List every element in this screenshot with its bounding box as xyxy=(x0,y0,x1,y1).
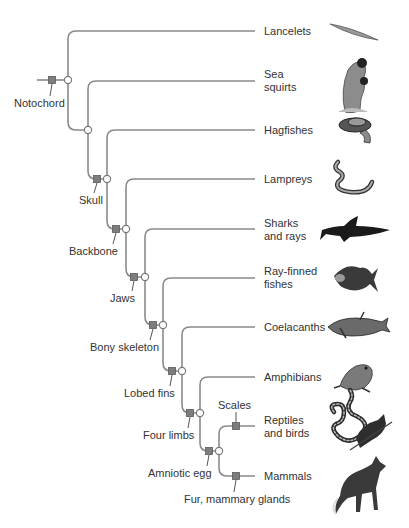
marker-fur xyxy=(233,473,240,480)
node-1 xyxy=(84,126,91,133)
branch-n1-n2 xyxy=(88,130,107,179)
character-label-fur-mammary-glands: Fur, mammary glands xyxy=(184,493,290,506)
leader-amniotic-egg xyxy=(207,455,209,466)
character-label-bony-skeleton: Bony skeleton xyxy=(90,341,159,354)
taxon-label-ray-finned-fishes: Ray-finnedfishes xyxy=(264,265,317,291)
node-0 xyxy=(64,76,71,83)
node-4 xyxy=(141,273,148,280)
leader-jaws xyxy=(132,281,134,291)
branch-n3-n4 xyxy=(126,229,145,277)
node-8 xyxy=(215,447,222,454)
shark-icon xyxy=(320,216,390,242)
lancelet-icon xyxy=(330,24,378,40)
character-label-amniotic-egg: Amniotic egg xyxy=(148,467,212,480)
leader-lobed-fins xyxy=(170,375,172,386)
taxon-label-coelacanths: Coelacanths xyxy=(264,321,325,334)
branch-lampreys xyxy=(126,179,255,229)
taxon-label-sea-squirts: Seasquirts xyxy=(264,68,296,94)
hagfish-icon xyxy=(339,118,371,143)
branch-n4-n5 xyxy=(145,277,163,325)
node-3 xyxy=(122,225,129,232)
branch-coelacanths xyxy=(182,327,255,371)
marker-skull xyxy=(94,176,101,183)
character-label-backbone: Backbone xyxy=(69,245,118,258)
taxon-label-mammals: Mammals xyxy=(264,470,312,483)
branch-hagfishes xyxy=(107,130,255,179)
node-6 xyxy=(178,367,185,374)
branch-n7-n8 xyxy=(200,413,219,451)
leader-skull xyxy=(94,183,97,193)
character-label-skull: Skull xyxy=(79,194,103,207)
node-7 xyxy=(196,409,203,416)
frog-icon xyxy=(334,365,372,392)
bird-icon xyxy=(350,414,392,450)
taxon-label-sharks-and-rays: Sharksand rays xyxy=(264,217,306,243)
leader-fur xyxy=(234,480,236,492)
coelacanth-icon xyxy=(328,312,390,338)
marker-four-limbs xyxy=(187,410,194,417)
character-label-four-limbs: Four limbs xyxy=(143,429,194,442)
lamprey-icon xyxy=(335,162,372,192)
ray-finned-fish-icon xyxy=(334,266,378,292)
marker-bony-skeleton xyxy=(150,322,157,329)
branch-n2-n3 xyxy=(107,179,126,229)
leader-backbone xyxy=(113,233,116,244)
branch-sea-squirts xyxy=(88,81,255,130)
marker-amniotic-egg xyxy=(206,448,213,455)
marker-backbone xyxy=(113,226,120,233)
leader-bony-skeleton xyxy=(150,329,153,340)
branch-n0-n1 xyxy=(68,80,88,130)
character-label-jaws: Jaws xyxy=(110,292,135,305)
marker-scales xyxy=(233,423,240,430)
character-label-scales: Scales xyxy=(218,399,251,412)
taxon-label-reptiles-and-birds: Reptilesand birds xyxy=(264,414,309,440)
branch-ray-finned xyxy=(163,278,255,325)
phylogenetic-tree xyxy=(0,0,409,528)
taxon-label-amphibians: Amphibians xyxy=(264,371,321,384)
marker-notochord xyxy=(49,77,56,84)
node-2 xyxy=(103,175,110,182)
node-5 xyxy=(159,321,166,328)
character-label-notochord: Notochord xyxy=(14,97,65,110)
sea-squirt-icon xyxy=(338,58,368,113)
taxon-label-lancelets: Lancelets xyxy=(264,25,311,38)
branch-n5-n6 xyxy=(163,325,182,371)
branch-sharks xyxy=(145,229,255,277)
branch-lancelets xyxy=(68,31,255,80)
branch-n6-n7 xyxy=(182,371,200,413)
character-label-lobed-fins: Lobed fins xyxy=(124,387,175,400)
leader-four-limbs xyxy=(188,417,190,428)
fox-icon xyxy=(333,456,386,514)
taxon-label-lampreys: Lampreys xyxy=(264,173,312,186)
marker-lobed-fins xyxy=(169,368,176,375)
taxon-label-hagfishes: Hagfishes xyxy=(264,124,313,137)
marker-jaws xyxy=(131,274,138,281)
leader-notochord xyxy=(50,84,52,96)
